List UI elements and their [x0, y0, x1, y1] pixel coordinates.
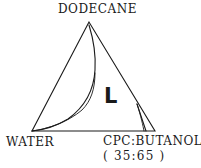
ternary-phase-diagram: DODECANE WATER CPC:BUTANOL ( 35:65 ) L: [0, 0, 201, 168]
region-label-single-phase: L: [104, 86, 117, 107]
binodal-curve-lower: [32, 73, 95, 131]
binodal-curve-main: [32, 25, 95, 131]
ternary-triangle-outline: [32, 22, 155, 131]
vertex-label-cpc-butanol-ratio: ( 35:65 ): [103, 150, 165, 162]
vertex-label-cpc-butanol: CPC:BUTANOL: [103, 135, 201, 147]
vertex-label-water: WATER: [6, 136, 54, 148]
vertex-label-dodecane: DODECANE: [58, 3, 137, 15]
